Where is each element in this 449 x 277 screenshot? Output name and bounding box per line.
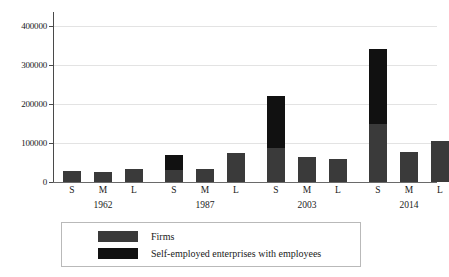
bar-segment-self-employed: [165, 155, 183, 170]
chart-legend: Firms Self-employed enterprises with emp…: [61, 222, 361, 267]
bar-segment-firms: [125, 169, 143, 182]
bar-segment-firms: [165, 170, 183, 182]
bar-2014-S: [369, 49, 387, 182]
bar-segment-firms: [227, 153, 245, 182]
x-tick-label-2014-L: L: [431, 185, 449, 195]
legend-item-firms: Firms: [98, 228, 360, 245]
bars-layer: [53, 12, 437, 182]
bar-1962-L: [125, 169, 143, 182]
bar-2003-S: [267, 96, 285, 182]
x-axis-tick-labels: SMLSMLSMLSML: [53, 185, 437, 201]
legend-swatch-firms: [98, 231, 138, 242]
bar-1987-L: [227, 153, 245, 182]
bar-2003-L: [329, 159, 347, 182]
bar-2003-M: [298, 157, 316, 182]
y-axis-label-400000: 400000: [21, 21, 47, 31]
group-label-1987: 1987: [196, 200, 215, 210]
bar-segment-firms: [63, 171, 81, 182]
x-axis-line: [53, 182, 437, 183]
x-axis-group-labels: 1962198720032014: [53, 200, 437, 216]
group-label-1962: 1962: [94, 200, 113, 210]
x-tick-label-1987-S: S: [165, 185, 183, 195]
x-tick-label-1987-M: M: [196, 185, 214, 195]
bar-1987-M: [196, 169, 214, 182]
bar-2014-M: [400, 152, 418, 182]
group-label-2003: 2003: [298, 200, 317, 210]
bar-segment-firms: [431, 141, 449, 182]
x-tick-label-2003-L: L: [329, 185, 347, 195]
y-axis-label-300000: 300000: [21, 60, 47, 70]
y-axis-label-0: 0: [43, 177, 47, 187]
x-tick-label-1962-M: M: [94, 185, 112, 195]
bar-2014-L: [431, 141, 449, 182]
x-tick-label-1962-S: S: [63, 185, 81, 195]
bar-segment-firms: [329, 159, 347, 182]
legend-label-self-employed: Self-employed enterprises with employees: [151, 248, 321, 259]
x-tick-label-1962-L: L: [125, 185, 143, 195]
bar-segment-firms: [298, 157, 316, 182]
legend-label-firms: Firms: [151, 231, 174, 242]
bar-1962-M: [94, 172, 112, 182]
x-tick-label-2003-S: S: [267, 185, 285, 195]
bar-segment-firms: [196, 169, 214, 182]
group-label-2014: 2014: [400, 200, 419, 210]
x-tick-label-2003-M: M: [298, 185, 316, 195]
bar-segment-firms: [94, 172, 112, 182]
bar-segment-self-employed: [369, 49, 387, 124]
bar-segment-self-employed: [267, 96, 285, 148]
bar-1962-S: [63, 171, 81, 182]
y-axis-label-100000: 100000: [21, 138, 47, 148]
bar-segment-firms: [400, 152, 418, 182]
bar-segment-firms: [369, 124, 387, 182]
x-tick-label-2014-S: S: [369, 185, 387, 195]
x-tick-label-2014-M: M: [400, 185, 418, 195]
y-axis-label-200000: 200000: [21, 99, 47, 109]
legend-item-self-employed: Self-employed enterprises with employees: [98, 245, 360, 262]
bar-segment-firms: [267, 148, 285, 182]
x-tick-label-1987-L: L: [227, 185, 245, 195]
legend-swatch-self-employed: [98, 248, 138, 259]
bar-1987-S: [165, 155, 183, 182]
